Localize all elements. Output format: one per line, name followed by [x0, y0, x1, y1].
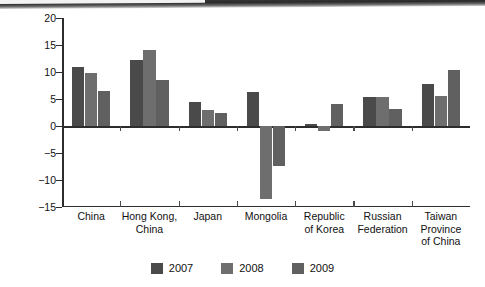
bar-2007: [363, 97, 375, 126]
legend-swatch: [292, 263, 304, 274]
y-axis-line: [62, 18, 64, 207]
chart-legend: 200720082009: [0, 262, 485, 274]
group-separator-tick: [120, 126, 121, 131]
bar-2009: [98, 91, 110, 126]
bar-2008: [202, 110, 214, 126]
bar-2008: [260, 126, 272, 199]
bar-2007: [247, 92, 259, 126]
bar-group: [363, 18, 401, 207]
axis-separator-tick: [353, 201, 354, 207]
bar-2008: [376, 97, 388, 126]
group-separator-tick: [353, 126, 354, 131]
bar-2009: [215, 113, 227, 127]
group-separator-tick: [412, 126, 413, 131]
legend-label: 2008: [239, 262, 263, 274]
bar-2007: [189, 102, 201, 126]
bar-2008: [318, 126, 330, 131]
bar-chart-figure: Percentage of GDP 20151050−5−10−15 China…: [0, 0, 485, 287]
bar-2007: [130, 60, 142, 126]
bar-group: [422, 18, 460, 207]
x-category-label: Taiwan Province of China: [412, 210, 470, 248]
x-category-label: Mongolia: [237, 210, 295, 223]
group-separator-tick: [179, 126, 180, 131]
bar-group: [305, 18, 343, 207]
y-tick-label: −5: [44, 148, 56, 158]
y-tick-mark: [56, 207, 62, 208]
bar-2008: [435, 96, 447, 126]
x-category-label: Japan: [179, 210, 237, 223]
legend-item: 2009: [292, 262, 334, 274]
bar-2009: [156, 80, 168, 126]
bar-group: [247, 18, 285, 207]
axis-separator-tick: [179, 201, 180, 207]
bar-2007: [422, 84, 434, 126]
x-category-label: Russian Federation: [353, 210, 411, 235]
axis-separator-tick: [412, 201, 413, 207]
x-category-label: Hong Kong, China: [120, 210, 178, 235]
bar-2009: [273, 126, 285, 166]
y-tick-label: −10: [38, 175, 56, 185]
y-tick-mark: [56, 45, 62, 46]
y-tick-mark: [56, 99, 62, 100]
y-axis-tick-labels: 20151050−5−10−15: [0, 18, 56, 207]
group-separator-tick: [237, 126, 238, 131]
y-tick-mark: [56, 180, 62, 181]
bar-group: [130, 18, 168, 207]
bar-group: [72, 18, 110, 207]
axis-separator-tick: [237, 201, 238, 207]
y-tick-label: 20: [44, 13, 56, 23]
x-category-label: Republic of Korea: [295, 210, 353, 235]
legend-label: 2007: [169, 262, 193, 274]
legend-label: 2009: [310, 262, 334, 274]
bar-2007: [72, 67, 84, 126]
bar-2008: [85, 73, 97, 126]
legend-item: 2007: [151, 262, 193, 274]
y-tick-mark: [56, 126, 62, 127]
bar-group: [189, 18, 227, 207]
y-tick-mark: [56, 72, 62, 73]
axis-separator-tick: [120, 201, 121, 207]
y-tick-mark: [56, 18, 62, 19]
bar-2009: [389, 109, 401, 126]
legend-swatch: [221, 263, 233, 274]
legend-item: 2008: [221, 262, 263, 274]
axis-separator-tick: [295, 201, 296, 207]
y-tick-label: −15: [38, 202, 56, 212]
y-tick-label: 15: [44, 40, 56, 50]
bar-2007: [305, 124, 317, 126]
y-tick-mark: [56, 153, 62, 154]
group-separator-tick: [295, 126, 296, 131]
x-category-label: China: [62, 210, 120, 223]
bar-2009: [331, 104, 343, 126]
bar-2008: [143, 50, 155, 126]
y-tick-label: 10: [44, 67, 56, 77]
bar-2009: [448, 70, 460, 126]
plot-area: ChinaHong Kong, ChinaJapanMongoliaRepubl…: [62, 18, 470, 207]
legend-swatch: [151, 263, 163, 274]
